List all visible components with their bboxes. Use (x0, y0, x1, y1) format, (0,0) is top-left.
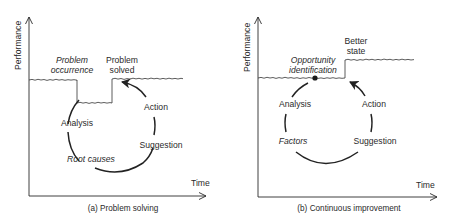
cycle-label-analysis: Analysis (279, 99, 311, 109)
better-state-label-2: state (347, 46, 366, 56)
cycle-arc-to-opportunity (292, 83, 308, 97)
cycle-label-suggestion: Suggestion (353, 136, 396, 146)
cycle-label-root-causes: Root causes (67, 154, 115, 164)
cycle-label-suggestion: Suggestion (139, 140, 182, 150)
cycle-arc-action (371, 114, 372, 132)
x-axis-label: Time (416, 180, 435, 190)
caption-continuous-improvement: (b) Continuous improvement (297, 204, 401, 213)
performance-line (29, 78, 183, 103)
cycle-label-factors: Factors (279, 136, 308, 146)
cycle-label-action: Action (362, 99, 386, 109)
problem-solved-label-1: Problem (106, 55, 138, 65)
opportunity-point-dot (312, 75, 317, 80)
opportunity-identification-label-2: identification (289, 65, 337, 75)
y-axis-label: Performance (13, 21, 23, 70)
cycle-arc-action (154, 117, 155, 135)
better-state-label-1: Better (345, 36, 368, 46)
problem-occurrence-label-1: Problem (56, 55, 88, 65)
cycle-label-action: Action (144, 102, 168, 112)
panel-continuous-improvement: Performance Time Better state Opportunit… (242, 17, 437, 213)
opportunity-identification-label-1: Opportunity (291, 55, 336, 65)
problem-occurrence-label-2: occurrence (51, 65, 94, 75)
panel-problem-solving: Performance Time Problem occurrence Prob… (13, 17, 210, 213)
y-axis-label: Performance (242, 23, 252, 72)
cycle-arrow-to-better-state (350, 82, 365, 96)
x-axis-label: Time (191, 178, 210, 188)
caption-problem-solving: (a) Problem solving (88, 204, 159, 213)
cycle-arrow-to-solved (122, 82, 146, 97)
problem-solved-label-2: solved (110, 65, 135, 75)
cycle-label-analysis: Analysis (61, 118, 93, 128)
diagram-canvas: Performance Time Problem occurrence Prob… (0, 0, 452, 221)
cycle-arc-factors-suggestion (296, 152, 358, 164)
cycle-arc-analysis (285, 114, 286, 132)
